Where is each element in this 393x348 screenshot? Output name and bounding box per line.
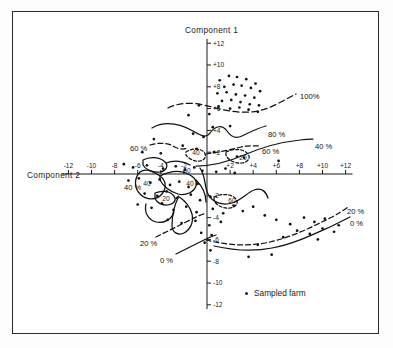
data-point bbox=[161, 202, 164, 205]
data-point bbox=[323, 217, 326, 220]
data-point bbox=[247, 255, 250, 258]
y-tick-label: +8 bbox=[213, 83, 221, 90]
data-point bbox=[296, 229, 299, 232]
inline-contour-label: 40 bbox=[192, 149, 200, 156]
data-point bbox=[209, 196, 212, 199]
data-point bbox=[236, 76, 239, 79]
contour-label: 60 % bbox=[130, 144, 147, 153]
data-point bbox=[229, 125, 232, 128]
data-point bbox=[136, 203, 139, 206]
data-point bbox=[196, 182, 199, 185]
data-point bbox=[317, 238, 320, 241]
data-point bbox=[258, 104, 261, 107]
x-tick-label: -6 bbox=[135, 162, 141, 169]
data-point bbox=[321, 227, 324, 230]
figure-container: -12-10-8-6-4-2+2+4+6+8+10+12-12-10-8-6-4… bbox=[0, 0, 393, 348]
data-point bbox=[259, 90, 262, 93]
data-point bbox=[176, 197, 179, 200]
x-axis-title: Component 2 bbox=[27, 170, 80, 180]
x-tick-label: -10 bbox=[87, 162, 97, 169]
data-point bbox=[199, 199, 202, 202]
data-point bbox=[162, 167, 165, 170]
data-point bbox=[248, 103, 251, 106]
data-point bbox=[247, 108, 250, 111]
data-point bbox=[195, 211, 198, 214]
data-point bbox=[159, 152, 162, 155]
x-tick-label: +6 bbox=[273, 162, 281, 169]
data-point bbox=[172, 209, 175, 212]
legend-label: Sampled farm bbox=[254, 288, 306, 298]
data-point bbox=[192, 132, 195, 135]
data-point bbox=[289, 223, 292, 226]
data-point bbox=[208, 224, 211, 227]
y-tick-label: +12 bbox=[213, 40, 225, 47]
data-point bbox=[230, 99, 233, 102]
x-tick-label: +12 bbox=[340, 162, 352, 169]
data-point bbox=[166, 218, 169, 221]
data-point bbox=[244, 94, 247, 97]
data-point bbox=[313, 221, 316, 224]
data-point bbox=[232, 83, 235, 86]
data-point bbox=[254, 82, 257, 85]
contour-label: 20 % bbox=[347, 207, 364, 216]
data-point bbox=[263, 214, 266, 217]
contour-path bbox=[168, 94, 296, 112]
y-tick-label: +10 bbox=[213, 61, 225, 68]
data-point bbox=[138, 177, 141, 180]
contour-label: 0 % bbox=[350, 219, 363, 228]
data-point bbox=[256, 244, 259, 247]
data-point bbox=[193, 166, 196, 169]
legend: Sampled farm bbox=[245, 288, 306, 298]
inline-contour-label: 40 bbox=[186, 180, 194, 187]
data-point bbox=[127, 179, 130, 182]
data-point bbox=[224, 167, 227, 170]
data-point bbox=[220, 221, 223, 224]
data-point bbox=[132, 166, 135, 169]
data-point bbox=[211, 126, 214, 129]
inline-contour-label: 20 bbox=[239, 154, 247, 161]
contour-label: 100% bbox=[300, 92, 319, 101]
data-point bbox=[222, 212, 225, 215]
y-tick-label: -4 bbox=[213, 214, 219, 221]
contour-label: 80 % bbox=[268, 130, 285, 139]
data-point bbox=[169, 184, 172, 187]
contour-path bbox=[145, 204, 174, 222]
contour-label: 40 % bbox=[315, 142, 332, 151]
data-point bbox=[211, 208, 214, 211]
contour-path bbox=[172, 196, 193, 234]
data-point bbox=[275, 218, 278, 221]
data-point bbox=[158, 178, 161, 181]
data-point bbox=[194, 220, 197, 223]
data-point bbox=[236, 155, 239, 158]
data-point bbox=[181, 144, 184, 147]
data-point bbox=[185, 205, 188, 208]
data-point bbox=[240, 84, 243, 87]
data-point bbox=[210, 234, 213, 237]
y-tick-label: -10 bbox=[213, 279, 223, 286]
data-point bbox=[223, 85, 226, 88]
data-point bbox=[180, 222, 183, 225]
data-point bbox=[150, 206, 153, 209]
x-tick-label: +4 bbox=[249, 162, 257, 169]
x-tick-label: +10 bbox=[317, 162, 329, 169]
data-point bbox=[333, 230, 336, 233]
data-point bbox=[174, 165, 177, 168]
data-point bbox=[250, 87, 253, 90]
inline-contour-label: 20 bbox=[162, 195, 170, 202]
y-tick-label: -12 bbox=[213, 301, 223, 308]
data-point bbox=[303, 216, 306, 219]
inline-contour-label: 40 bbox=[143, 180, 151, 187]
data-point bbox=[209, 249, 212, 252]
data-point bbox=[337, 224, 340, 227]
data-point bbox=[277, 160, 280, 163]
data-point bbox=[238, 106, 241, 109]
data-point bbox=[165, 190, 168, 193]
data-point bbox=[253, 96, 256, 99]
contour-label: 20 % bbox=[140, 239, 157, 248]
data-point bbox=[232, 204, 235, 207]
x-tick-label: -8 bbox=[112, 162, 118, 169]
data-point bbox=[213, 151, 216, 154]
data-point bbox=[201, 169, 204, 172]
data-point bbox=[143, 192, 146, 195]
data-point bbox=[178, 180, 181, 183]
